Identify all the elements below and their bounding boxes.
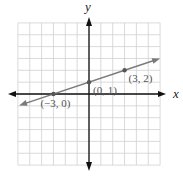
y-axis-arrow-down-icon [86,162,92,171]
y-axis-label: y [83,0,91,14]
data-point [122,68,126,72]
axes [8,17,166,171]
data-point [87,80,91,84]
line-arrow-right-icon [152,58,161,64]
point-label: (0, 1) [93,84,117,97]
x-axis-label: x [172,86,179,101]
y-axis-arrow-up-icon [86,17,92,26]
line-arrow-left-icon [19,100,28,106]
data-point [51,92,55,96]
coordinate-graph: (−3, 0)(0, 1)(3, 2) y x [0,0,183,176]
point-label: (3, 2) [129,72,153,85]
x-axis-arrow-right-icon [158,91,166,97]
x-axis-arrow-left-icon [8,91,16,97]
point-label: (−3, 0) [40,97,70,110]
data-points: (−3, 0)(0, 1)(3, 2) [40,68,152,110]
